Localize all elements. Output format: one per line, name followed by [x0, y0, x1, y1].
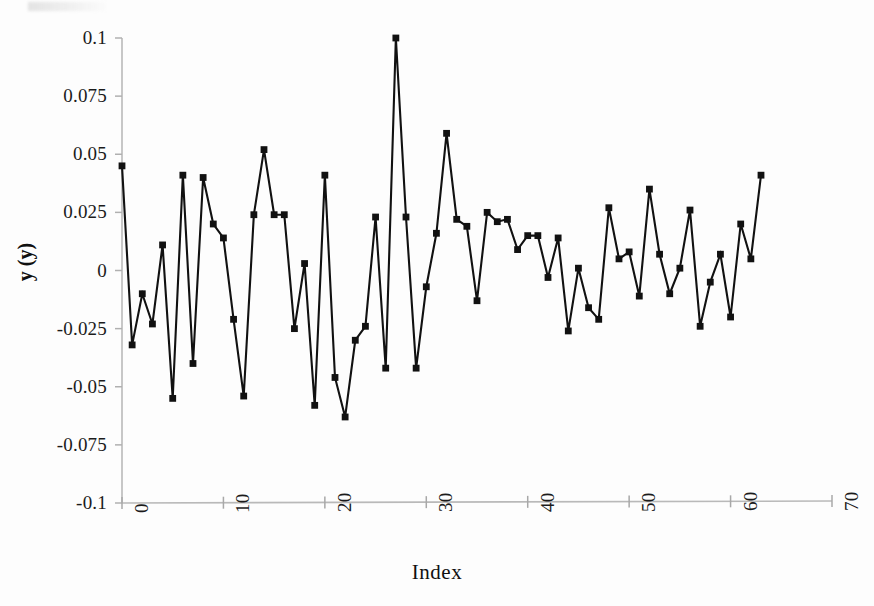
- data-point-marker: [443, 130, 450, 137]
- data-point-marker: [169, 395, 176, 402]
- data-point-marker: [453, 216, 460, 223]
- data-point-marker: [484, 209, 491, 216]
- data-point-marker: [200, 174, 207, 181]
- data-point-marker: [646, 186, 653, 193]
- data-point-marker: [504, 216, 511, 223]
- data-point-marker: [474, 297, 481, 304]
- data-point-marker: [687, 207, 694, 214]
- data-point-marker: [494, 218, 501, 225]
- data-point-marker: [230, 316, 237, 323]
- data-point-marker: [676, 265, 683, 272]
- data-point-marker: [403, 214, 410, 221]
- x-axis-title: Index: [0, 560, 874, 585]
- data-point-marker: [261, 146, 268, 153]
- data-point-marker: [575, 265, 582, 272]
- x-tick-label: 0: [131, 503, 153, 513]
- data-point-marker: [534, 232, 541, 239]
- data-point-marker: [159, 242, 166, 249]
- x-tick-label: 10: [232, 493, 254, 512]
- data-point-marker: [595, 316, 602, 323]
- y-tick-label: 0.05: [0, 143, 107, 165]
- line-chart-plot-area: [0, 0, 874, 606]
- y-tick-label: 0.1: [0, 27, 107, 49]
- data-point-marker: [758, 172, 765, 179]
- data-point-marker: [727, 314, 734, 321]
- x-tick-label: 30: [435, 493, 457, 512]
- data-point-marker: [149, 321, 156, 328]
- data-point-marker: [281, 211, 288, 218]
- y-axis-title: y (y): [14, 243, 37, 281]
- data-point-marker: [697, 323, 704, 330]
- data-point-marker: [190, 360, 197, 367]
- data-point-marker: [382, 365, 389, 372]
- data-point-marker: [656, 251, 663, 258]
- y-tick-label: -0.075: [0, 434, 107, 456]
- data-point-marker: [585, 304, 592, 311]
- data-point-marker: [139, 290, 146, 297]
- x-tick-label: 20: [334, 493, 356, 512]
- data-point-marker: [616, 255, 623, 262]
- data-point-marker: [271, 211, 278, 218]
- data-point-marker: [392, 35, 399, 42]
- data-point-marker: [605, 204, 612, 211]
- data-point-marker: [220, 235, 227, 242]
- data-point-marker: [311, 402, 318, 409]
- data-point-marker: [250, 211, 257, 218]
- x-tick-label: 60: [740, 492, 762, 511]
- y-tick-label: -0.1: [0, 492, 107, 514]
- chart-figure: -0.1-0.075-0.05-0.02500.0250.050.0750.1 …: [0, 0, 874, 606]
- data-point-marker: [737, 221, 744, 228]
- data-point-marker: [747, 255, 754, 262]
- x-tick-label: 70: [841, 492, 863, 511]
- data-point-marker: [362, 323, 369, 330]
- data-point-marker: [240, 393, 247, 400]
- data-point-marker: [524, 232, 531, 239]
- x-tick-label: 40: [537, 492, 559, 511]
- data-point-marker: [372, 214, 379, 221]
- data-point-marker: [210, 221, 217, 228]
- data-point-marker: [514, 246, 521, 253]
- y-tick-label: 0.075: [0, 85, 107, 107]
- data-point-marker: [423, 283, 430, 290]
- data-point-marker: [666, 290, 673, 297]
- data-point-marker: [565, 328, 572, 335]
- data-point-marker: [707, 279, 714, 286]
- data-point-marker: [352, 337, 359, 344]
- y-tick-label: -0.05: [0, 376, 107, 398]
- data-point-marker: [332, 374, 339, 381]
- data-point-marker: [626, 249, 633, 256]
- data-point-marker: [129, 342, 136, 349]
- data-point-marker: [342, 414, 349, 421]
- data-point-marker: [301, 260, 308, 267]
- y-tick-label: -0.025: [0, 318, 107, 340]
- x-tick-label: 50: [638, 492, 660, 511]
- data-point-marker: [291, 325, 298, 332]
- data-point-marker: [433, 230, 440, 237]
- data-point-marker: [321, 172, 328, 179]
- data-point-marker: [179, 172, 186, 179]
- data-point-marker: [636, 293, 643, 300]
- data-point-marker: [717, 251, 724, 258]
- data-point-marker: [119, 162, 126, 169]
- data-point-marker: [413, 365, 420, 372]
- y-tick-label: 0.025: [0, 201, 107, 223]
- series-line-y: [122, 38, 761, 417]
- data-point-marker: [545, 274, 552, 281]
- x-axis-line: [122, 501, 832, 503]
- data-point-marker: [555, 235, 562, 242]
- data-point-marker: [463, 223, 470, 230]
